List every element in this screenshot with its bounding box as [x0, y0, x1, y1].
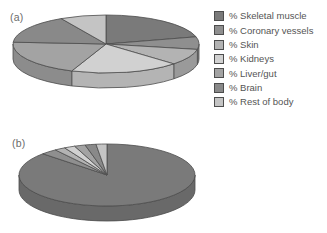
- legend-label: % Liver/gut: [229, 69, 277, 79]
- legend-swatch-icon: [214, 40, 224, 50]
- panel-label-a: (a): [10, 11, 23, 23]
- legend-item: % Brain: [214, 80, 313, 94]
- pie-chart-b: [19, 144, 195, 221]
- legend-item: % Coronary vessels: [214, 23, 313, 37]
- panel-label-b: (b): [12, 137, 25, 149]
- legend-label: % Coronary vessels: [229, 26, 313, 36]
- legend-item: % Skin: [214, 38, 313, 52]
- legend-label: % Skin: [229, 40, 259, 50]
- legend-swatch-icon: [214, 68, 224, 78]
- legend: % Skeletal muscle% Coronary vessels% Ski…: [214, 9, 313, 109]
- legend-label: % Brain: [229, 83, 262, 93]
- legend-label: % Skeletal muscle: [229, 11, 307, 21]
- legend-swatch-icon: [214, 97, 224, 107]
- legend-item: % Kidneys: [214, 52, 313, 66]
- pie-chart-a: [13, 15, 199, 88]
- legend-item: % Skeletal muscle: [214, 9, 313, 23]
- legend-swatch-icon: [214, 11, 224, 21]
- legend-item: % Liver/gut: [214, 66, 313, 80]
- figure-canvas: (a) (b) % Skeletal muscle% Coronary vess…: [0, 0, 327, 233]
- legend-swatch-icon: [214, 54, 224, 64]
- legend-label: % Kidneys: [229, 54, 274, 64]
- legend-label: % Rest of body: [229, 97, 293, 107]
- legend-item: % Rest of body: [214, 95, 313, 109]
- legend-swatch-icon: [214, 25, 224, 35]
- legend-swatch-icon: [214, 83, 224, 93]
